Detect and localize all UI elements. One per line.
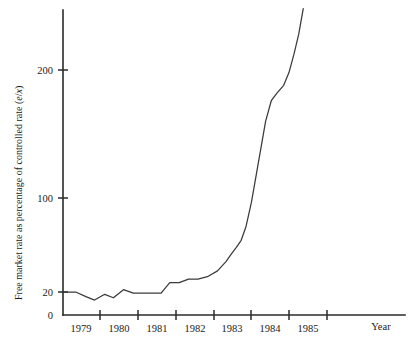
data-series-group bbox=[63, 9, 303, 300]
x-tick-label: 1979 bbox=[71, 323, 92, 334]
line-chart: Free market rate as percentage of contro… bbox=[0, 0, 417, 344]
y-tick-label: 100 bbox=[37, 193, 53, 204]
data-line-free-market-rate bbox=[63, 9, 303, 300]
chart-figure: Free market rate as percentage of contro… bbox=[0, 0, 417, 344]
x-tick-label: 1980 bbox=[109, 323, 130, 334]
y-axis-label-group: Free market rate as percentage of contro… bbox=[13, 86, 25, 300]
x-tick-label: 1985 bbox=[298, 323, 319, 334]
y-axis-label-lead: Free market rate as percentage of contro… bbox=[13, 100, 25, 300]
x-tick-group: 1979198019811982198319841985 bbox=[71, 310, 328, 334]
x-tick-label: 1982 bbox=[185, 323, 206, 334]
x-tick-label: 1984 bbox=[260, 323, 282, 334]
x-axis-title: Year bbox=[371, 321, 391, 332]
y-tick-label: 0 bbox=[48, 310, 53, 321]
axes-group bbox=[63, 10, 405, 315]
x-tick-label: 1983 bbox=[222, 323, 243, 334]
y-axis-label-close: ) bbox=[13, 86, 25, 89]
y-axis-label: Free market rate as percentage of contro… bbox=[13, 86, 25, 300]
y-tick-label: 200 bbox=[37, 65, 53, 76]
x-tick-label: 1981 bbox=[147, 323, 168, 334]
y-tick-label: 20 bbox=[43, 287, 54, 298]
